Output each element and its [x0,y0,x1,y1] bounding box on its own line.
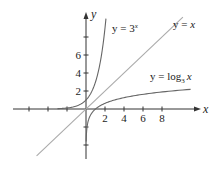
x-tick-label: 6 [140,112,146,124]
exp-curve-label: y = 3x [112,22,139,34]
y-tick-label: 6 [76,49,82,61]
identity-line-label: y = x [173,18,195,30]
y-tick-label: 4 [76,67,82,79]
y-axis-label: y [90,7,97,21]
graph-figure: 2468246xyy = 3xy = xy = log3x [0,0,217,170]
x-tick-label: 4 [121,112,127,124]
y-tick-label: 2 [76,85,82,97]
curves [37,17,191,156]
log-curve-label: y = log3x [150,70,192,85]
exp-curve [58,19,106,109]
y-axis-arrow-icon [84,12,89,19]
axes [13,12,201,159]
x-tick-label: 8 [159,112,165,124]
identity-line [37,17,183,156]
labels: 2468246xyy = 3xy = xy = log3x [76,7,210,124]
x-tick-label: 2 [102,112,108,124]
x-axis-label: x [202,102,209,116]
plot-area: 2468246xyy = 3xy = xy = log3x [0,0,217,170]
x-axis-arrow-icon [194,107,201,112]
